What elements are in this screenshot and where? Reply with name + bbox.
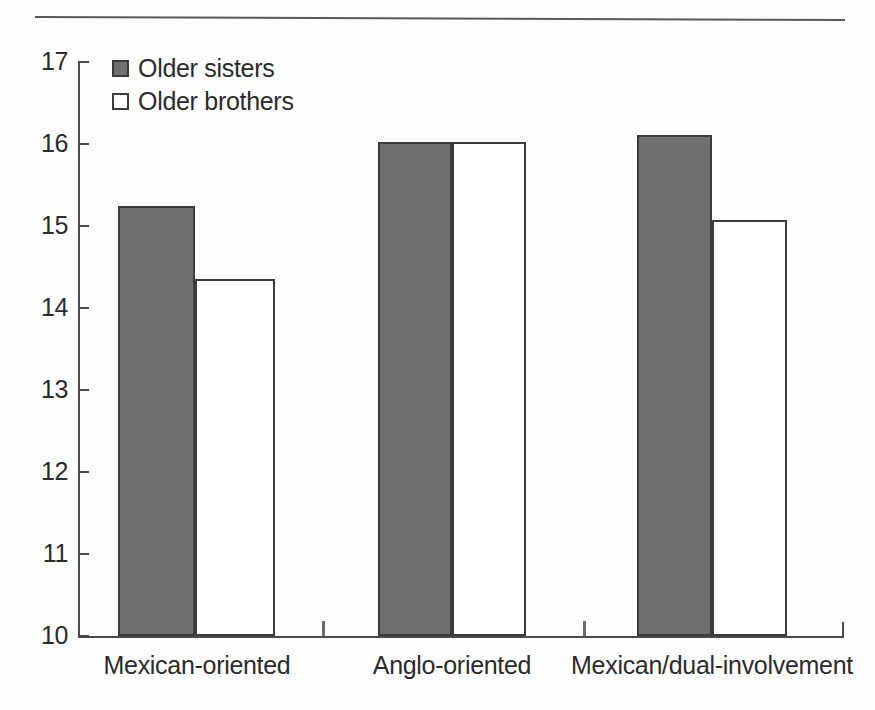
bar-brothers-2 (712, 220, 787, 636)
y-axis-tick (78, 553, 89, 555)
x-axis-line (78, 636, 844, 638)
bar-brothers-0 (195, 279, 275, 636)
x-axis-category-label: Mexican/dual-involvement (512, 650, 875, 680)
y-axis-tick (78, 61, 89, 63)
bar-sisters-2 (637, 135, 712, 636)
y-axis-tick (78, 143, 89, 145)
filled-gray-square-icon (112, 60, 129, 77)
bar-sisters-1 (378, 142, 452, 636)
chart-legend: Older sisters Older brothers (112, 52, 372, 118)
legend-item-older-sisters: Older sisters (112, 52, 372, 85)
y-axis-tick (78, 389, 89, 391)
legend-label-older-sisters: Older sisters (138, 55, 274, 82)
bar-brothers-1 (452, 142, 526, 636)
x-axis-category-labels: Mexican-orientedAnglo-orientedMexican/du… (0, 650, 875, 696)
y-axis-tick (78, 471, 89, 473)
bar-sisters-0 (118, 206, 195, 637)
legend-item-older-brothers: Older brothers (112, 85, 372, 118)
x-axis-group-tick (322, 621, 325, 636)
legend-label-older-brothers: Older brothers (138, 88, 294, 115)
chart-figure: 1716151413121110 Mexican-orientedAnglo-o… (0, 0, 875, 710)
y-axis-tick (78, 307, 89, 309)
outline-white-square-icon (112, 93, 129, 110)
y-axis-tick (78, 225, 89, 227)
y-axis-tick (78, 635, 89, 637)
x-axis-group-tick (583, 621, 586, 636)
